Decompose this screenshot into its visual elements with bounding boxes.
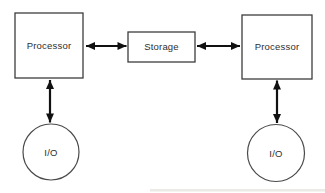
node-storage-label: Storage [144,41,179,52]
node-io-right-label: I/O [269,148,282,159]
node-processor-left-label: Processor [27,40,72,51]
node-processor-right-label: Processor [255,41,300,52]
page-edge-artifact [150,189,325,192]
dual-processor-storage-diagram: Processor Storage Processor I/O I/O [0,0,325,193]
node-storage: Storage [128,32,195,62]
node-io-left: I/O [23,124,79,180]
node-io-left-label: I/O [44,147,57,158]
node-processor-left: Processor [15,13,83,78]
node-processor-right: Processor [242,15,312,79]
diagram-canvas: Processor Storage Processor I/O I/O [0,0,325,193]
node-io-right: I/O [248,125,305,182]
